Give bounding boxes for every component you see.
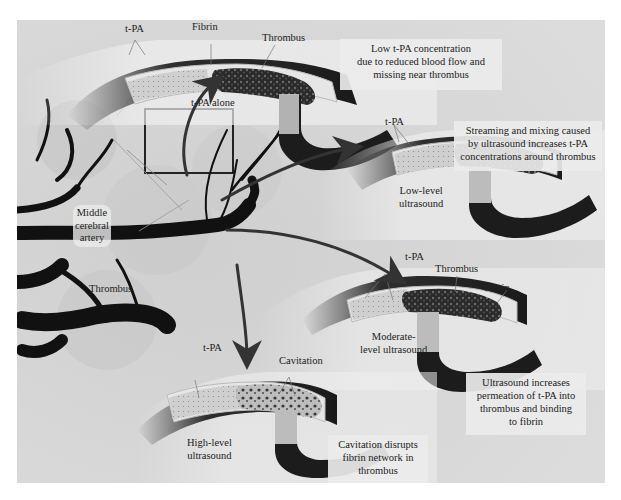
diagram-figure: Middle cerebral artery Thrombus t-PA Fib… (17, 20, 605, 483)
label-middle-cerebral-artery: Middle cerebral artery (73, 205, 111, 247)
condition-line2: ultrasound (187, 450, 232, 463)
callout-line: Low t-PA concentration (346, 42, 496, 55)
label-condition-low-level: Low-level ultrasound (399, 185, 443, 210)
callout-high-level: Cavitation disrupts fibrin network in th… (328, 435, 428, 483)
callout-line: permeation of t-PA into (472, 389, 580, 402)
callout-tpa-alone: Low t-PA concentration due to reduced bl… (340, 39, 502, 90)
callout-line: thrombus and binding (472, 402, 580, 415)
condition-line1: Moderate- (360, 331, 427, 344)
condition-line1: High-level (187, 437, 232, 450)
label-thrombus-panel1: Thrombus (262, 32, 305, 45)
callout-line: Ultrasound increases (472, 376, 580, 389)
callout-line: due to reduced blood flow and (346, 55, 496, 68)
callout-line: to fibrin (472, 415, 580, 428)
callout-moderate-level: Ultrasound increases permeation of t-PA … (466, 373, 586, 435)
label-tpa-panel4: t-PA (203, 342, 222, 355)
callout-line: thrombus (334, 464, 422, 477)
label-angiogram-thrombus: Thrombus (89, 283, 132, 296)
label-tpa-panel3: t-PA (405, 251, 424, 264)
label-condition-moderate-level: Moderate- level ultrasound (360, 331, 427, 356)
callout-line: by ultrasound increases t-PA (460, 137, 596, 150)
callout-line: missing near thrombus (346, 68, 496, 81)
label-condition-tpa-alone: t-PA alone (191, 97, 235, 110)
callout-line: fibrin network in (334, 451, 422, 464)
label-condition-high-level: High-level ultrasound (187, 437, 232, 462)
callout-line: Streaming and mixing caused (460, 124, 596, 137)
condition-line1: Low-level (399, 185, 443, 198)
label-thrombus-panel3: Thrombus (435, 263, 478, 276)
label-fibrin-panel3: Fibrin (484, 282, 510, 295)
label-tpa-panel2: t-PA (385, 116, 404, 129)
condition-line2: level ultrasound (360, 344, 427, 357)
callout-line: Cavitation disrupts (334, 438, 422, 451)
mca-label-line3: artery (75, 232, 109, 245)
mca-label-line2: cerebral (75, 220, 109, 233)
label-cavitation: Cavitation (279, 355, 323, 368)
callout-line: concentrations around thrombus (460, 150, 596, 163)
callout-low-level: Streaming and mixing caused by ultrasoun… (454, 121, 602, 171)
condition-line2: ultrasound (399, 198, 443, 211)
mca-label-line1: Middle (75, 207, 109, 220)
label-fibrin-panel1: Fibrin (192, 21, 218, 34)
label-tpa-panel1: t-PA (125, 23, 144, 36)
